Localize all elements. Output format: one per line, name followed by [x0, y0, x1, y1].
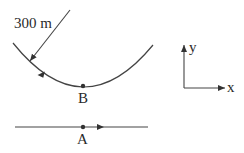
axis-x-label: x [227, 80, 235, 95]
straight-direction-arrow-icon [97, 124, 104, 130]
point-b-label: B [78, 91, 88, 106]
curved-track [13, 43, 153, 87]
axis-y-label: y [189, 40, 197, 55]
point-b-dot [81, 84, 85, 88]
radius-label: 300 m [14, 16, 52, 31]
point-a-dot [81, 125, 85, 129]
point-a-label: A [77, 132, 88, 147]
curve-direction-arrow-icon [38, 71, 47, 79]
